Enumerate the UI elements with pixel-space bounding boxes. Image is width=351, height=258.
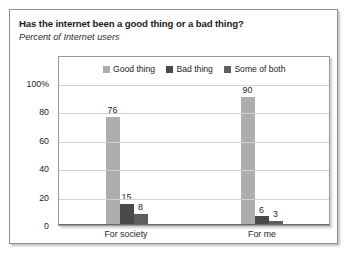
legend-item-some-of-both[interactable]: Some of both — [224, 64, 286, 74]
gridline — [59, 170, 329, 171]
bar-column: 15 — [120, 85, 134, 225]
legend-swatch-icon — [103, 66, 110, 73]
bar-group: 76158 — [59, 85, 194, 225]
gridline — [59, 199, 329, 200]
legend-swatch-icon — [166, 66, 173, 73]
bar-column: 3 — [269, 85, 283, 225]
legend-label: Some of both — [234, 64, 285, 74]
legend-swatch-icon — [224, 66, 231, 73]
plot-area: Good thingBad thingSome of both 76158906… — [58, 56, 330, 226]
legend-item-bad-thing[interactable]: Bad thing — [166, 64, 213, 74]
bar-value-label: 15 — [122, 193, 132, 202]
bar-group: 9063 — [194, 85, 329, 225]
bar-set: 9063 — [194, 85, 329, 225]
y-axis-tick-label: 0 — [44, 221, 49, 231]
bar-column: 6 — [255, 85, 269, 225]
chart-card: Has the internet been a good thing or a … — [9, 9, 338, 244]
bar-column: 90 — [241, 85, 255, 225]
y-axis-tick-label: 80 — [39, 107, 49, 117]
bar-groups: 761589063 — [59, 85, 329, 225]
bar-value-label: 6 — [259, 206, 264, 215]
y-axis-labels: 020406080100% — [10, 10, 54, 243]
gridline — [59, 85, 329, 86]
chart-legend: Good thingBad thingSome of both — [59, 64, 329, 74]
bar-column: 76 — [106, 85, 120, 225]
gridline — [59, 142, 329, 143]
x-axis-labels: For societyFor me — [58, 229, 330, 239]
bar-good-thing[interactable] — [241, 97, 255, 225]
x-axis-category-label: For me — [194, 229, 330, 239]
y-axis-tick-label: 20 — [39, 193, 49, 203]
bar-column: 8 — [134, 85, 148, 225]
x-axis-line — [59, 224, 329, 225]
y-axis-tick-label: 40 — [39, 164, 49, 174]
legend-label: Bad thing — [177, 64, 213, 74]
bar-bad-thing[interactable] — [120, 204, 134, 225]
bar-value-label: 3 — [273, 210, 278, 219]
y-axis-tick-label: 100% — [27, 79, 50, 89]
x-axis-category-label: For society — [58, 229, 194, 239]
bar-value-label: 90 — [243, 86, 253, 95]
legend-label: Good thing — [113, 64, 155, 74]
plot-grid: 761589063 — [59, 85, 329, 225]
legend-item-good-thing[interactable]: Good thing — [103, 64, 156, 74]
bar-value-label: 8 — [138, 203, 143, 212]
gridline — [59, 113, 329, 114]
bar-set: 76158 — [59, 85, 194, 225]
y-axis-tick-label: 60 — [39, 136, 49, 146]
